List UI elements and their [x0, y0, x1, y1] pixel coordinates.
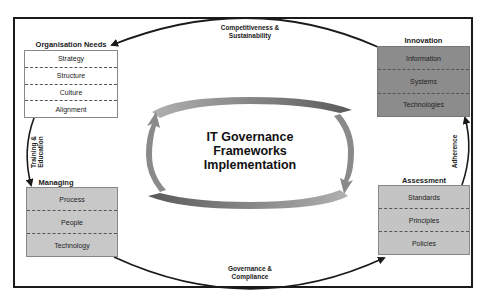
edge-left-line2: Education [37, 132, 44, 172]
item-policies: Policies [379, 231, 469, 254]
managing-title: Managing [26, 178, 86, 187]
edge-label-top: Competitiveness & Sustainability [200, 24, 300, 40]
edge-label-left: Training & Education [30, 132, 44, 172]
edge-top-line1: Competitiveness & [200, 24, 300, 32]
item-culture: Culture [25, 84, 117, 101]
edge-top-line2: Sustainability [200, 32, 300, 40]
innovation-box: Information Systems Technologies [377, 46, 470, 117]
edge-right-line1: Adherence [451, 132, 458, 172]
organisation-needs-box: Strategy Structure Culture Alignment [24, 50, 118, 118]
item-structure: Structure [25, 67, 117, 84]
item-information: Information [378, 47, 469, 69]
item-technologies: Technologies [378, 93, 469, 116]
organisation-needs-title: Organisation Needs [24, 40, 118, 49]
innovation-title: Innovation [377, 36, 470, 45]
edge-label-right: Adherence [451, 132, 458, 172]
edge-bottom-line2: Compliance [200, 273, 300, 281]
edge-bottom-line1: Governance & [200, 265, 300, 273]
item-technology: Technology [27, 233, 117, 256]
item-standards: Standards [379, 186, 469, 208]
center-title-line2: Frameworks [190, 144, 310, 158]
assessment-title: Assessment [378, 176, 470, 185]
center-title: IT Governance Frameworks Implementation [190, 130, 310, 172]
item-systems: Systems [378, 69, 469, 92]
item-strategy: Strategy [25, 51, 117, 67]
item-principles: Principles [379, 208, 469, 231]
managing-box: Process People Technology [26, 187, 118, 257]
arrow-right-arc [462, 118, 469, 185]
center-title-line3: Implementation [190, 158, 310, 172]
item-people: People [27, 210, 117, 233]
edge-left-line1: Training & [30, 132, 37, 172]
center-title-line1: IT Governance [190, 130, 310, 144]
edge-label-bottom: Governance & Compliance [200, 265, 300, 281]
item-alignment: Alignment [25, 100, 117, 117]
assessment-box: Standards Principles Policies [378, 185, 470, 255]
item-process: Process [27, 188, 117, 210]
